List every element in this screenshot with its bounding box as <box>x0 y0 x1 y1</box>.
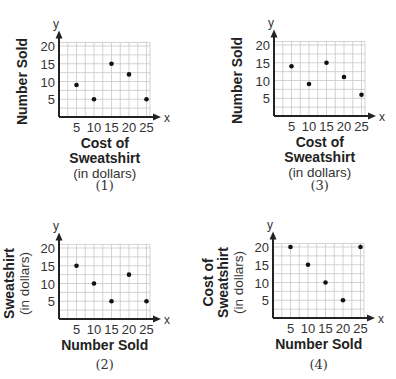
x-axis-symbol: x <box>378 312 384 326</box>
x-arrow-icon <box>368 113 376 120</box>
y-axis-symbol: y <box>53 17 59 31</box>
x-axis-label: Sweatshirt <box>284 149 355 165</box>
x-tick-label: 15 <box>319 119 333 134</box>
x-tick-label: 20 <box>122 120 136 135</box>
x-axis-label: Number Sold <box>275 336 362 352</box>
data-point <box>358 245 363 250</box>
y-axis-label: Number Sold <box>14 38 30 125</box>
y-tick-label: 15 <box>256 56 270 71</box>
x-arrow-icon <box>153 114 161 121</box>
data-point <box>324 60 329 65</box>
chart-panel-1: xy5101520255101520Cost ofSweatshirt(in d… <box>14 17 170 193</box>
data-point <box>127 272 132 277</box>
x-tick-label: 25 <box>139 322 153 337</box>
y-arrow-icon <box>56 232 63 240</box>
grid <box>273 243 364 318</box>
data-point <box>359 92 364 97</box>
x-tick-label: 5 <box>287 321 294 336</box>
data-point <box>341 298 346 303</box>
x-tick-label: 5 <box>288 119 295 134</box>
data-point <box>144 97 149 102</box>
data-point <box>289 64 294 69</box>
data-point <box>323 280 328 285</box>
x-axis-symbol: x <box>379 110 385 124</box>
y-tick-label: 10 <box>255 276 269 291</box>
data-point <box>307 82 312 87</box>
x-tick-label: 20 <box>122 322 136 337</box>
charts-canvas: xy5101520255101520Cost ofSweatshirt(in d… <box>0 0 396 379</box>
chart-caption: (1) <box>96 178 114 193</box>
axes: xy5101520255101520 <box>41 17 170 135</box>
data-point <box>288 245 293 250</box>
y-axis-label: Cost of <box>200 258 216 307</box>
data-point <box>342 75 347 80</box>
x-axis-label: Cost of <box>81 135 130 151</box>
chart-panel-4: xy5101520255101520Number SoldCost ofSwea… <box>200 218 384 372</box>
y-axis-label: Sweatshirt <box>215 247 231 318</box>
y-tick-label: 10 <box>41 277 55 292</box>
chart-caption: (3) <box>311 178 329 193</box>
y-tick-label: 15 <box>255 258 269 273</box>
x-tick-label: 5 <box>73 322 80 337</box>
x-arrow-icon <box>367 315 375 322</box>
x-tick-label: 10 <box>302 119 316 134</box>
x-tick-label: 25 <box>353 321 367 336</box>
x-arrow-icon <box>153 316 161 323</box>
y-axis-label: (in dollars) <box>17 252 32 315</box>
data-point <box>74 83 79 88</box>
data-point <box>92 97 97 102</box>
data-point <box>109 299 114 304</box>
x-tick-label: 15 <box>318 321 332 336</box>
x-tick-label: 25 <box>139 120 153 135</box>
x-axis-label: Cost of <box>296 134 345 150</box>
data-point <box>109 61 114 66</box>
data-point <box>92 281 97 286</box>
y-axis-symbol: y <box>268 16 274 30</box>
x-tick-label: 10 <box>301 321 315 336</box>
data-point <box>144 299 149 304</box>
y-tick-label: 15 <box>41 259 55 274</box>
x-tick-label: 15 <box>104 322 118 337</box>
axes: xy5101520255101520 <box>256 16 385 134</box>
y-axis-symbol: y <box>267 218 273 232</box>
x-axis-label: Sweatshirt <box>69 150 140 166</box>
chart-panel-2: xy5101520255101520Number SoldCost ofSwea… <box>0 219 170 372</box>
chart-caption: (4) <box>310 357 328 372</box>
y-axis-label: Number Sold <box>229 37 245 124</box>
x-tick-label: 20 <box>336 321 350 336</box>
y-tick-label: 10 <box>41 75 55 90</box>
y-arrow-icon <box>271 29 278 37</box>
x-tick-label: 5 <box>73 120 80 135</box>
y-axis-label: Sweatshirt <box>1 248 17 319</box>
y-tick-label: 5 <box>262 293 269 308</box>
grid <box>59 42 150 117</box>
axes: xy5101520255101520 <box>255 218 384 336</box>
y-axis-label: (in dollars) <box>231 251 246 314</box>
y-arrow-icon <box>270 231 277 239</box>
y-tick-label: 20 <box>41 39 55 54</box>
grid <box>274 41 365 116</box>
chart-panel-3: xy5101520255101520Cost ofSweatshirt(in d… <box>229 16 385 193</box>
y-tick-label: 20 <box>41 241 55 256</box>
y-tick-label: 5 <box>263 91 270 106</box>
axes: xy5101520255101520 <box>41 219 170 337</box>
y-arrow-icon <box>56 30 63 38</box>
y-tick-label: 5 <box>48 294 55 309</box>
data-point <box>306 262 311 267</box>
y-tick-label: 15 <box>41 57 55 72</box>
x-tick-label: 10 <box>87 322 101 337</box>
x-tick-label: 25 <box>354 119 368 134</box>
x-axis-symbol: x <box>164 111 170 125</box>
grid <box>59 244 150 319</box>
x-axis-symbol: x <box>164 313 170 327</box>
x-tick-label: 20 <box>337 119 351 134</box>
y-tick-label: 20 <box>255 240 269 255</box>
x-tick-label: 15 <box>104 120 118 135</box>
x-tick-label: 10 <box>87 120 101 135</box>
y-tick-label: 5 <box>48 92 55 107</box>
y-axis-symbol: y <box>53 219 59 233</box>
y-tick-label: 10 <box>256 74 270 89</box>
chart-caption: (2) <box>96 357 114 372</box>
x-axis-label: Number Sold <box>61 337 148 353</box>
y-tick-label: 20 <box>256 38 270 53</box>
